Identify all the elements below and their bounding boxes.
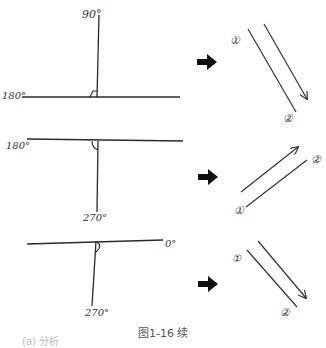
label-180-row2: 180°: [6, 140, 30, 151]
angle-mark: [90, 91, 97, 97]
label-start-2: ①: [234, 204, 245, 217]
label-90: 90°: [82, 8, 102, 21]
axes-diagram-2: [27, 139, 183, 212]
label-end-1: ②: [283, 112, 294, 125]
label-270-row3: 270°: [84, 307, 109, 318]
partial-subcaption: (a) 分析: [22, 333, 59, 348]
label-start-3: ①: [232, 253, 242, 264]
label-end-2: ②: [311, 153, 322, 166]
result-diagram-1: [248, 24, 307, 112]
label-end-3: ②: [280, 306, 291, 319]
label-0: 0°: [165, 238, 176, 249]
right-arrow-icon: [198, 169, 218, 185]
right-arrow-icon: [197, 54, 217, 70]
figure-caption: 图1-16 续: [138, 324, 188, 340]
result-diagram-3: [247, 241, 306, 307]
label-start-1: ①: [230, 34, 241, 47]
angle-mark: [96, 242, 100, 252]
angle-mark: [92, 141, 98, 150]
axes-diagram-1: [22, 15, 180, 97]
label-270-row2: 270°: [82, 212, 107, 223]
right-arrow-icon: [198, 276, 218, 292]
label-180-row1: 180°: [2, 90, 26, 101]
axes-diagram-3: [27, 240, 163, 306]
result-diagram-2: [241, 147, 307, 207]
